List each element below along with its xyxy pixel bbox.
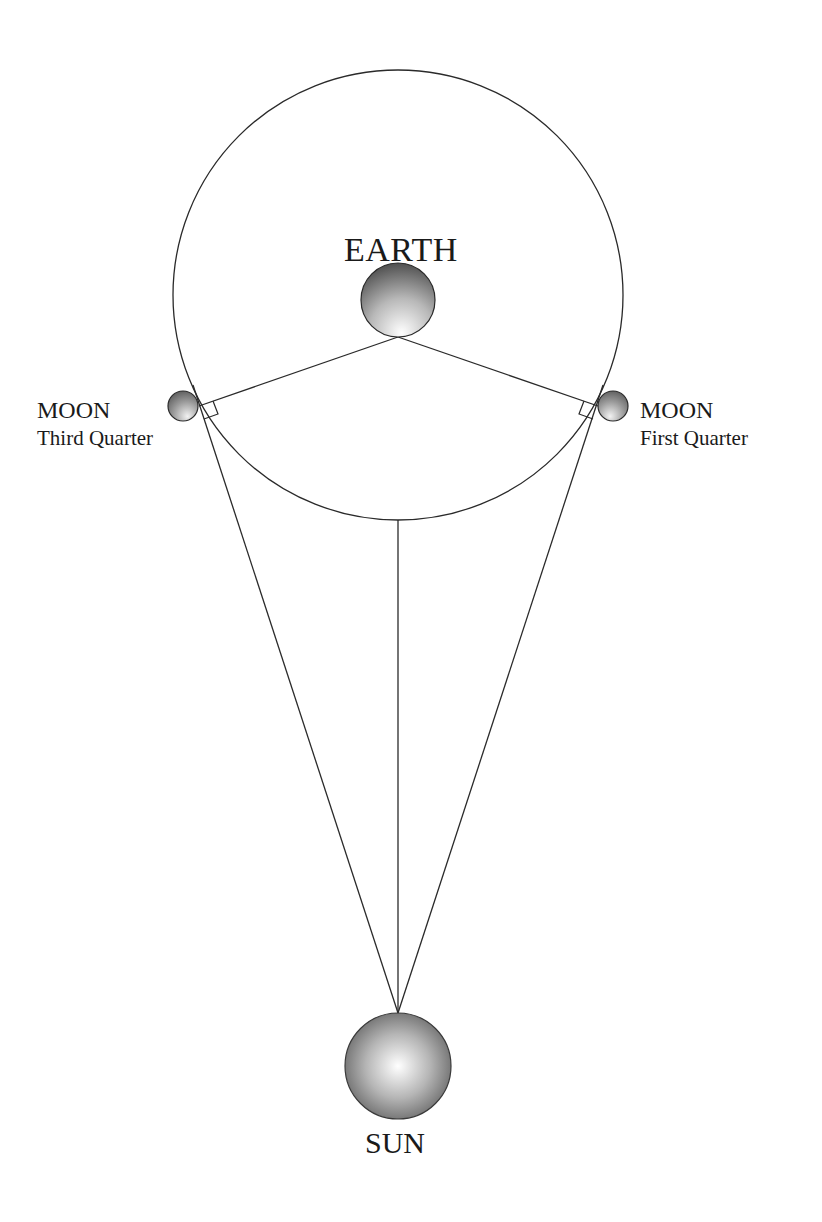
moon-first-quarter-sphere <box>598 391 628 421</box>
moon-first-quarter-label: MOON <box>640 398 713 422</box>
sun-sphere <box>345 1013 451 1119</box>
sun-label: SUN <box>365 1128 425 1158</box>
moon-phase-diagram <box>0 0 822 1222</box>
line-earth-to-first-quarter-moon <box>398 337 598 406</box>
line-sun-to-third-quarter-moon <box>193 385 398 1013</box>
line-earth-to-third-quarter-moon <box>199 337 398 406</box>
moon-third-quarter-label: MOON <box>37 398 110 422</box>
moon-third-quarter-phase: Third Quarter <box>37 428 153 449</box>
earth-sphere <box>361 263 435 337</box>
earth-label: EARTH <box>344 233 458 267</box>
line-sun-to-first-quarter-moon <box>398 385 603 1013</box>
moon-first-quarter-phase: First Quarter <box>640 428 748 449</box>
moon-third-quarter-sphere <box>168 391 198 421</box>
